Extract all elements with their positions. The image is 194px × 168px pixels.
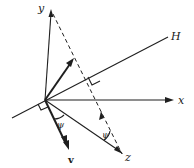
h-label: H [170, 30, 181, 43]
psi-label-z: ψ [102, 130, 110, 140]
y-axis-arrowhead-icon [49, 9, 54, 17]
coordinate-diagram: y x H z v ψ ψ [0, 0, 194, 168]
psi-label-v: ψ [57, 120, 65, 130]
bold-vector-arrowhead-icon [66, 58, 74, 67]
v-label: v [67, 154, 75, 165]
y-label: y [37, 2, 45, 15]
y-axis [45, 13, 51, 100]
x-axis-arrowhead-icon [165, 97, 174, 103]
dashed-projection-line [53, 14, 122, 154]
z-label: z [124, 151, 131, 164]
x-label: x [178, 94, 185, 107]
psi-arc-v [54, 115, 64, 119]
h-line [12, 37, 168, 118]
